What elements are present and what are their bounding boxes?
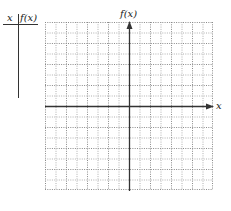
y-axis-arrow-icon xyxy=(127,21,133,29)
x-axis-arrow-icon xyxy=(206,104,214,110)
axes xyxy=(0,0,231,211)
